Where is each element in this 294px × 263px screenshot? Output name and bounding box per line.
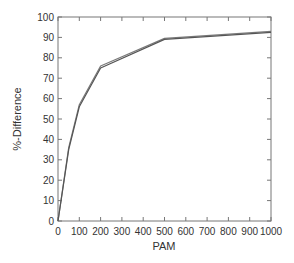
plot-frame (58, 17, 271, 221)
y-tick-label: 0 (48, 216, 54, 227)
y-tick-label: 90 (43, 32, 55, 43)
x-tick-label: 800 (220, 226, 237, 237)
x-tick-label: 300 (114, 226, 131, 237)
x-axis-ticks: 01002003004005006007008009001000 (55, 17, 282, 237)
x-tick-label: 400 (135, 226, 152, 237)
x-tick-label: 1000 (260, 226, 283, 237)
y-tick-label: 10 (43, 195, 55, 206)
plot-border (58, 17, 271, 221)
series-layer (58, 31, 271, 221)
y-tick-label: 70 (43, 73, 55, 84)
y-tick-label: 100 (37, 12, 54, 23)
series-line-series-2 (58, 32, 271, 221)
x-tick-label: 0 (55, 226, 61, 237)
x-tick-label: 700 (199, 226, 216, 237)
y-tick-label: 30 (43, 154, 55, 165)
y-axis-label: %-Difference (11, 87, 23, 150)
x-tick-label: 200 (92, 226, 109, 237)
y-tick-label: 50 (43, 114, 55, 125)
series-line-series-1 (58, 31, 271, 221)
x-tick-label: 900 (241, 226, 258, 237)
y-tick-label: 40 (43, 134, 55, 145)
x-axis-label: PAM (152, 240, 175, 252)
y-tick-label: 80 (43, 52, 55, 63)
y-tick-label: 60 (43, 93, 55, 104)
x-tick-label: 100 (71, 226, 88, 237)
x-tick-label: 600 (177, 226, 194, 237)
y-tick-label: 20 (43, 175, 55, 186)
x-tick-label: 500 (156, 226, 173, 237)
line-chart: 0102030405060708090100 01002003004005006… (0, 0, 294, 263)
